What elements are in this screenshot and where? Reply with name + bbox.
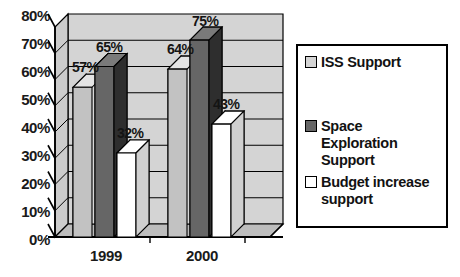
legend-swatch-icon bbox=[305, 120, 317, 132]
data-label-1999-iss: 57% bbox=[72, 60, 99, 74]
plot-area bbox=[0, 0, 300, 277]
bar-2000-budget-increase-support bbox=[212, 111, 244, 237]
data-label-2000-iss: 64% bbox=[167, 42, 194, 56]
legend-swatch-icon bbox=[305, 56, 317, 68]
data-label-1999-budget: 32% bbox=[117, 126, 144, 140]
chart-legend: ISS Support Space Exploration Support Bu… bbox=[296, 44, 448, 228]
legend-swatch-icon bbox=[305, 176, 317, 188]
legend-label: ISS Support bbox=[321, 54, 401, 71]
data-label-2000-space: 75% bbox=[192, 14, 219, 28]
legend-item-budget-increase-support[interactable]: Budget increase support bbox=[305, 174, 447, 208]
y-axis-ticks bbox=[48, 14, 55, 237]
x-axis-label-2000: 2000 bbox=[172, 248, 232, 263]
data-label-1999-space: 65% bbox=[96, 40, 123, 54]
chart-container: 80% 70% 60% 50% 40% 30% 20% 10% 0% bbox=[0, 0, 460, 277]
legend-label: Budget increase support bbox=[321, 174, 437, 208]
data-label-2000-budget: 43% bbox=[213, 97, 240, 111]
legend-item-iss-support[interactable]: ISS Support bbox=[305, 54, 401, 71]
legend-label: Space Exploration Support bbox=[321, 118, 433, 169]
x-axis-label-1999: 1999 bbox=[76, 248, 136, 263]
legend-item-space-exploration-support[interactable]: Space Exploration Support bbox=[305, 118, 443, 169]
bar-1999-budget-increase-support bbox=[117, 140, 149, 237]
